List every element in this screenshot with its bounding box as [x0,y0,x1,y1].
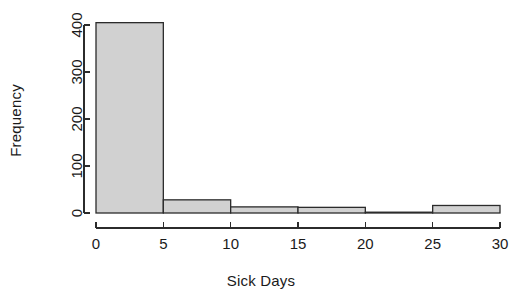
histogram-bar [96,23,163,213]
histogram-bar [298,207,365,213]
histogram-bar [231,207,298,213]
chart-canvas: 0100200300400051015202530 [0,0,522,307]
x-axis-tick-label: 15 [290,235,307,252]
histogram-plot: Frequency Sick Days 01002003004000510152… [0,0,522,307]
y-axis-tick-label: 300 [68,59,85,84]
x-axis-tick-label: 10 [222,235,239,252]
histogram-bar [365,212,432,213]
x-axis-tick-label: 5 [159,235,167,252]
y-axis-tick-label: 200 [68,106,85,131]
histogram-bar [163,200,230,213]
bars-group [96,23,500,213]
histogram-bar [433,205,500,213]
x-axis-tick-label: 25 [424,235,441,252]
x-axis-tick-label: 30 [492,235,509,252]
y-axis-tick-label: 100 [68,153,85,178]
y-axis-tick-label: 0 [68,209,85,217]
x-axis-tick-label: 0 [92,235,100,252]
x-axis-tick-label: 20 [357,235,374,252]
y-axis-tick-label: 400 [68,12,85,37]
